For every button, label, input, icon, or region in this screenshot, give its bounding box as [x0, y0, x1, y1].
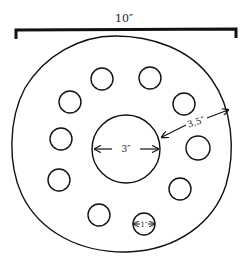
small-hole — [173, 93, 195, 115]
small-hole-label: 1″ — [140, 221, 147, 229]
small-hole — [91, 68, 113, 90]
small-hole — [139, 67, 161, 89]
small-hole — [169, 178, 191, 200]
small-hole — [59, 91, 81, 113]
center-hole-label: 3″ — [121, 144, 131, 154]
ring-width-label: 3.5″ — [186, 114, 207, 129]
width-dimension-bracket — [16, 29, 236, 39]
small-hole — [48, 169, 70, 191]
small-hole — [186, 136, 210, 160]
small-hole — [88, 204, 110, 226]
small-hole — [50, 128, 72, 150]
overall-width-label: 10″ — [115, 12, 133, 25]
wheel-diagram: 10″ 3″ 3.5″ 1″ — [0, 0, 249, 275]
